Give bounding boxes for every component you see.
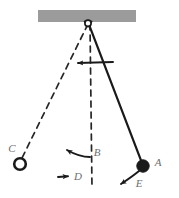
rod-dashed-vertical <box>90 24 92 188</box>
arrow-B-leftward <box>67 150 90 157</box>
bob-open-C <box>14 158 26 170</box>
label-B: B <box>94 146 101 158</box>
label-D: D <box>73 170 82 182</box>
label-E: E <box>135 177 143 189</box>
rod-solid-to-A <box>88 22 142 163</box>
label-A: A <box>154 156 162 168</box>
arrow-top-leftward <box>78 62 113 63</box>
label-C: C <box>8 142 16 154</box>
arrow-D-rightward <box>58 176 68 177</box>
pendulum-diagram: A B C D E <box>0 0 179 198</box>
rod-dashed-to-C <box>22 24 88 158</box>
pendulum-canvas: A B C D E <box>0 0 179 198</box>
pivot-point <box>85 20 91 26</box>
